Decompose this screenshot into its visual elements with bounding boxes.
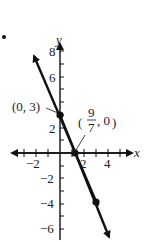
y-tick-6: 6 bbox=[49, 70, 56, 85]
y-tick-n6: −6 bbox=[40, 221, 54, 236]
leader-9-7 bbox=[76, 135, 85, 150]
frac-den: 7 bbox=[88, 120, 95, 135]
x-axis-label: x bbox=[133, 145, 140, 160]
y-tick-8: 8 bbox=[49, 44, 56, 59]
y-tick-2: 2 bbox=[49, 121, 56, 136]
point-3-neg4 bbox=[92, 198, 99, 205]
bullet-dot bbox=[2, 35, 6, 39]
frac-num: 9 bbox=[88, 105, 95, 120]
frac-rest: , 0 bbox=[97, 113, 110, 128]
annotation-9-7-0: ( 9 7 , 0 ) bbox=[78, 105, 116, 135]
y-tick-n4: −4 bbox=[40, 196, 54, 211]
y-tick-n2: −2 bbox=[40, 171, 54, 186]
line-down bbox=[60, 115, 109, 237]
point-x-intercept bbox=[71, 149, 78, 156]
x-tick-n2: −2 bbox=[26, 156, 40, 171]
chart: y x 8 6 2 −2 −4 −6 −2 2 4 (0, 3) ( 9 7 ,… bbox=[0, 0, 154, 242]
paren-right: ) bbox=[112, 115, 116, 130]
paren-left: ( bbox=[78, 115, 82, 130]
annotation-0-3: (0, 3) bbox=[12, 99, 40, 114]
x-tick-4: 4 bbox=[104, 156, 111, 171]
